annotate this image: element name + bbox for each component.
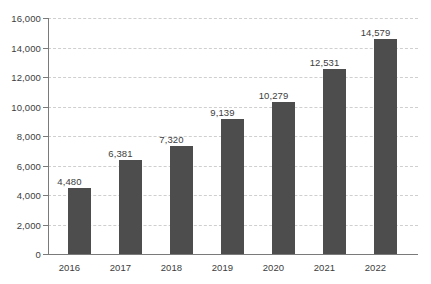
y-tick-label-0: 0 (1, 249, 41, 260)
y-tick-label-4000: 4,000 (1, 190, 41, 201)
y-tick-label-8000: 8,000 (1, 131, 41, 142)
bar-value-2021: 12,531 (295, 57, 355, 68)
gridline-12000 (48, 77, 418, 78)
bar-value-2020: 10,279 (244, 90, 304, 101)
y-axis-labels: 16,000 14,000 12,000 10,000 8,000 6,000 … (0, 0, 41, 284)
bar-2020[interactable] (272, 102, 295, 254)
plot-area (48, 18, 418, 254)
bar-2022[interactable] (374, 39, 397, 254)
bar-2019[interactable] (221, 119, 244, 254)
gridline-16000 (48, 18, 418, 19)
y-axis-line (48, 18, 49, 254)
bar-value-2018: 7,320 (142, 134, 202, 145)
bar-value-2017: 6,381 (91, 148, 151, 159)
y-tick-label-14000: 14,000 (1, 42, 41, 53)
bar-2017[interactable] (119, 160, 142, 254)
y-tick-label-16000: 16,000 (1, 13, 41, 24)
y-tick-label-10000: 10,000 (1, 101, 41, 112)
bar-value-2019: 9,139 (193, 107, 253, 118)
gridline-14000 (48, 48, 418, 49)
bar-chart: 16,000 14,000 12,000 10,000 8,000 6,000 … (0, 0, 431, 284)
y-tick-label-12000: 12,000 (1, 72, 41, 83)
bar-2016[interactable] (68, 188, 91, 254)
x-axis-line (48, 254, 418, 255)
bar-value-2022: 14,579 (346, 27, 406, 38)
bar-2018[interactable] (170, 146, 193, 254)
bar-value-2016: 4,480 (40, 176, 100, 187)
y-tick-label-2000: 2,000 (1, 219, 41, 230)
y-tick-label-6000: 6,000 (1, 160, 41, 171)
bar-2021[interactable] (323, 69, 346, 254)
x-tick-label-2022: 2022 (346, 262, 406, 273)
